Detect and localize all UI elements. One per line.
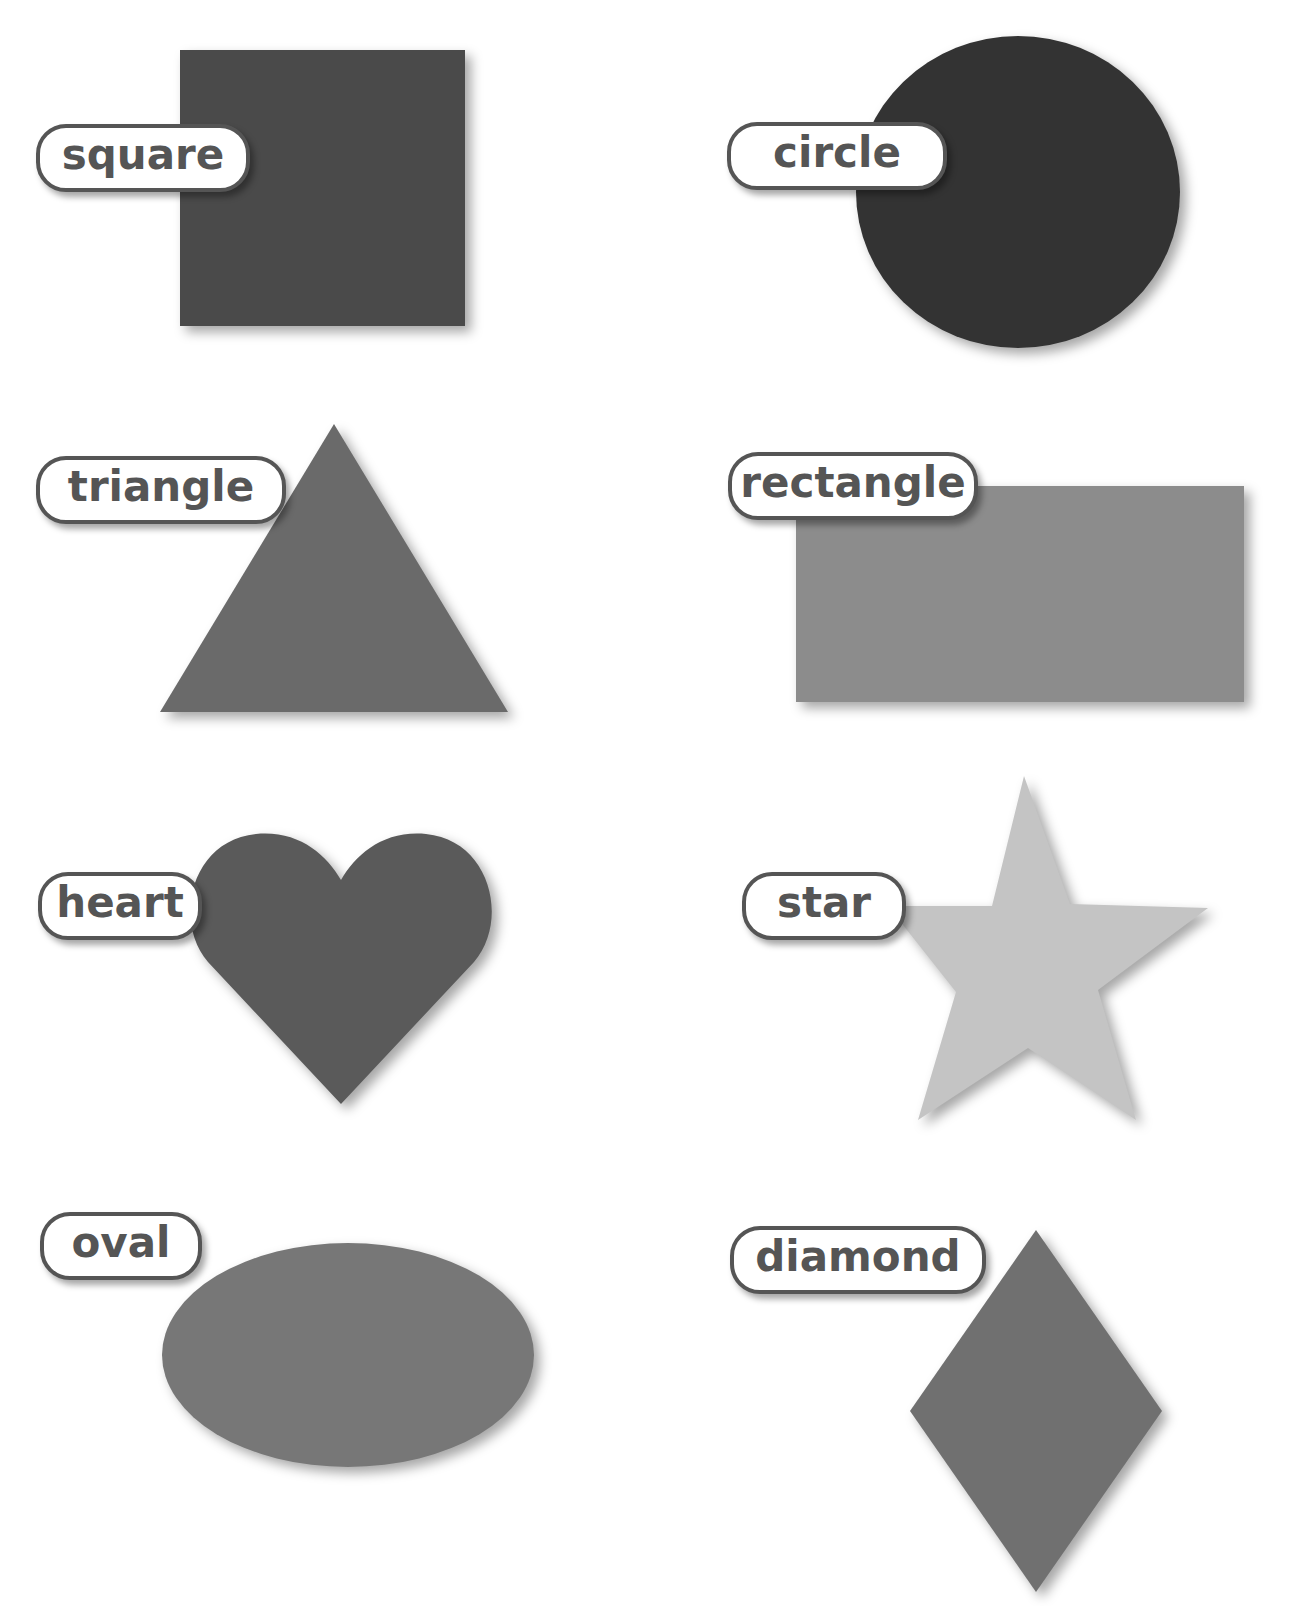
label-heart-text: heart (56, 882, 184, 924)
label-circle-text: circle (773, 132, 901, 174)
circle-shape (856, 36, 1180, 348)
label-rectangle-text: rectangle (740, 462, 965, 504)
heart-shape (190, 832, 492, 1106)
label-heart: heart (38, 872, 202, 940)
label-star-text: star (777, 882, 871, 924)
label-square-text: square (62, 134, 225, 176)
label-rectangle: rectangle (728, 452, 978, 520)
label-oval: oval (40, 1212, 202, 1280)
label-diamond-text: diamond (755, 1236, 960, 1278)
label-triangle-text: triangle (68, 466, 254, 508)
oval-shape (162, 1243, 534, 1467)
label-circle: circle (727, 122, 947, 190)
label-oval-text: oval (72, 1222, 171, 1264)
label-star: star (742, 872, 906, 940)
label-triangle: triangle (36, 456, 286, 524)
label-diamond: diamond (730, 1226, 986, 1294)
label-square: square (36, 124, 250, 192)
shapes-chart: square circle triangle rectangle heart s… (0, 0, 1296, 1606)
star-shape (888, 776, 1208, 1120)
